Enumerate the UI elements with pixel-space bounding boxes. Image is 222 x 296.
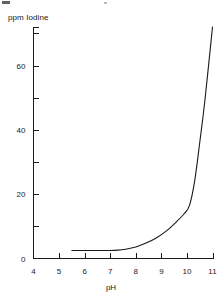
x-axis-tick-labels: 4567891011: [31, 267, 217, 276]
y-axis-ticks: [34, 34, 40, 227]
y-tick-label: 0: [21, 255, 26, 264]
x-tick-label: 4: [31, 267, 36, 276]
y-tick-label: 40: [17, 126, 26, 135]
y-axis-tick-labels: 0204060: [17, 62, 26, 264]
x-tick-label: 5: [57, 267, 62, 276]
y-tick-label: 20: [17, 190, 26, 199]
x-axis-ticks: [60, 253, 214, 259]
x-tick-label: 11: [208, 267, 217, 276]
chart-plot-area: 0204060 4567891011: [0, 0, 222, 296]
x-tick-label: 7: [108, 267, 113, 276]
iodine-ph-curve: [72, 27, 213, 250]
x-tick-label: 10: [182, 267, 191, 276]
chart-figure: ppm Iodine pH 0204060 4567891011: [0, 0, 222, 296]
x-tick-label: 9: [159, 267, 164, 276]
x-tick-label: 6: [82, 267, 87, 276]
y-tick-label: 60: [17, 62, 26, 71]
x-tick-label: 8: [134, 267, 139, 276]
